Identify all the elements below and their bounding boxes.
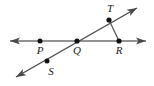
geometry-figure: P Q R S T (0, 0, 154, 86)
line-ST-upper-right-arrowhead (127, 8, 137, 16)
point-label-T: T (107, 2, 114, 14)
point-Q-dot (74, 38, 79, 43)
point-label-P: P (36, 44, 44, 56)
point-label-R: R (115, 44, 123, 56)
segment-TR-stroke (109, 20, 119, 41)
segment-TR (109, 20, 119, 41)
geometry-diagram-canvas: P Q R S T (0, 0, 154, 86)
point-label-S: S (48, 65, 54, 77)
point-P-dot (38, 39, 43, 44)
point-T-dot (106, 17, 111, 22)
point-S-dot (45, 59, 50, 64)
point-label-Q: Q (73, 44, 81, 56)
point-R-dot (116, 38, 121, 43)
line-ST-lower-left-arrowhead (16, 69, 26, 77)
